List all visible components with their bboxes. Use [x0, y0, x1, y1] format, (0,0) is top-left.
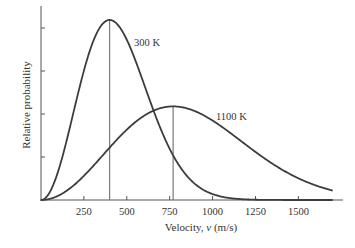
- x-axis-label: Velocity, v (m/s): [165, 221, 238, 234]
- x-tick-label: 1500: [288, 206, 309, 217]
- x-tick-label: 1250: [245, 206, 266, 217]
- x-axis-label-prefix: Velocity,: [165, 221, 206, 233]
- x-tick-label: 1000: [202, 206, 223, 217]
- y-ticks: [41, 28, 45, 157]
- axes: [40, 6, 343, 201]
- x-tick-label: 250: [76, 206, 92, 217]
- x-tick-label: 500: [119, 206, 135, 217]
- curve-1100k: [41, 106, 333, 200]
- x-axis-label-suffix: (m/s): [211, 221, 237, 234]
- x-tick-label: 750: [162, 206, 178, 217]
- series-label-1100k: 1100 K: [216, 111, 247, 122]
- y-axis-label: Relative probability: [20, 61, 32, 149]
- curves: [41, 20, 333, 200]
- series-label-300k: 300 K: [134, 37, 160, 48]
- maxwell-distribution-chart: 250500750100012501500 300 K 1100 K Relat…: [0, 0, 355, 248]
